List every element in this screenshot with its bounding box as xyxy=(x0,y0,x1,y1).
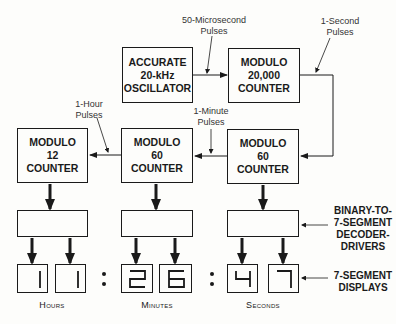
seven-segment-1-icon xyxy=(18,265,49,294)
label-line: 7-SEGMENT xyxy=(334,217,392,228)
oscillator-block: ACCURATE 20-kHz OSCILLATOR xyxy=(122,47,193,103)
minutes-decoder-driver-block xyxy=(121,210,193,237)
seven-segment-1-icon xyxy=(56,265,87,294)
label-50-microsecond-pulses: 50-Microsecond Pulses xyxy=(168,15,260,37)
seven-segment-4-icon xyxy=(228,265,259,294)
block-text: COUNTER xyxy=(27,162,79,175)
seven-segment-6-icon xyxy=(160,265,193,294)
seconds-ones-digit-display xyxy=(268,264,299,293)
seven-segment-7-icon xyxy=(269,265,300,294)
block-text: COUNTER xyxy=(131,162,183,175)
label-line: Pulses xyxy=(200,26,227,36)
label-line: DISPLAYS xyxy=(338,282,387,293)
minutes-label: Minutes xyxy=(121,300,193,310)
label-line: DECODER- xyxy=(336,229,389,240)
seven-segment-2-icon xyxy=(122,265,154,294)
colon-separator xyxy=(102,272,106,292)
label-line: BINARY-TO- xyxy=(334,205,392,216)
label-line: DRIVERS xyxy=(341,241,385,252)
hours-decoder-driver-block xyxy=(17,210,88,237)
block-text: 60 xyxy=(257,150,269,163)
block-text: MODULO xyxy=(29,136,76,149)
block-text: 20-kHz xyxy=(141,69,175,82)
label-line: Pulses xyxy=(197,117,224,127)
digital-clock-diagram: 50-Microsecond Pulses 1-Second Pulses 1-… xyxy=(0,0,396,324)
modulo-20000-counter-block: MODULO 20,000 COUNTER xyxy=(228,48,300,103)
label-1-minute-pulses: 1-Minute Pulses xyxy=(186,106,236,128)
label-1-second-pulses: 1-Second Pulses xyxy=(310,16,370,38)
block-text: MODULO xyxy=(134,136,181,149)
label-line: 7-SEGMENT xyxy=(334,270,392,281)
label-line: Pulses xyxy=(326,27,353,37)
seconds-modulo-60-counter-block: MODULO 60 COUNTER xyxy=(227,129,299,184)
decoder-drivers-label: BINARY-TO- 7-SEGMENT DECODER- DRIVERS xyxy=(330,205,396,253)
block-text: 60 xyxy=(151,149,163,162)
minutes-ones-digit-display xyxy=(159,264,192,293)
hours-label: Hours xyxy=(17,300,87,310)
seven-segment-displays-label: 7-SEGMENT DISPLAYS xyxy=(330,270,396,294)
seconds-label: Seconds xyxy=(227,300,299,310)
label-line: Pulses xyxy=(75,110,102,120)
label-1-hour-pulses: 1-Hour Pulses xyxy=(64,99,114,121)
minutes-tens-digit-display xyxy=(121,264,153,293)
colon-separator xyxy=(210,272,214,292)
label-line: 1-Second xyxy=(321,16,360,26)
hours-modulo-12-counter-block: MODULO 12 COUNTER xyxy=(17,128,88,183)
block-text: OSCILLATOR xyxy=(124,82,191,95)
label-line: 1-Hour xyxy=(75,99,103,109)
minutes-modulo-60-counter-block: MODULO 60 COUNTER xyxy=(121,128,193,183)
block-text: MODULO xyxy=(240,137,287,150)
hours-ones-digit-display xyxy=(55,264,86,293)
label-line: 1-Minute xyxy=(193,106,228,116)
block-text: COUNTER xyxy=(238,82,290,95)
block-text: MODULO xyxy=(241,56,288,69)
block-text: ACCURATE xyxy=(128,56,186,69)
block-text: 20,000 xyxy=(248,69,280,82)
hours-tens-digit-display xyxy=(17,264,48,293)
block-text: 12 xyxy=(47,149,59,162)
block-text: COUNTER xyxy=(237,163,289,176)
seconds-decoder-driver-block xyxy=(227,210,299,237)
seconds-tens-digit-display xyxy=(227,264,258,293)
label-line: 50-Microsecond xyxy=(182,15,246,25)
